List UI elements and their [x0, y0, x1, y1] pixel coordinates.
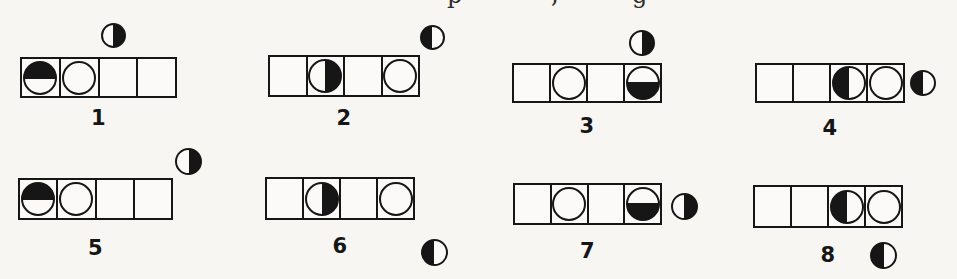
empty-cell — [588, 65, 625, 101]
half-left-marker-below-right-outside — [421, 239, 448, 266]
cell-with-half-bottom — [625, 65, 660, 101]
half-left-marker-below-cell-4 — [870, 242, 897, 269]
empty-cell — [514, 65, 551, 101]
cropped-letter-fragment: p — [447, 0, 462, 7]
empty-cell — [97, 180, 135, 218]
cell-with-half-left — [829, 187, 866, 226]
figure-4: 4 — [0, 0, 957, 279]
half-left-circle-icon — [830, 190, 864, 224]
half-left-circle-icon — [832, 66, 866, 100]
half-top-circle-icon — [23, 61, 57, 95]
cell-with-half-top — [20, 180, 58, 218]
half-top-circle-icon — [21, 182, 55, 216]
empty-cell — [794, 65, 831, 101]
circle-open-circle-icon — [379, 182, 413, 216]
cell-with-half-top — [22, 59, 61, 96]
half-left-marker-right-of-row — [910, 70, 936, 96]
cell-with-circle-open — [378, 179, 413, 218]
empty-cell — [267, 179, 304, 218]
figure-6: 6 — [0, 0, 957, 279]
cropped-letter-fragment: , — [551, 0, 559, 7]
cell-with-half-right — [304, 179, 341, 218]
cell-with-circle-open — [551, 65, 588, 101]
empty-cell — [270, 57, 308, 95]
cell-with-circle-open — [866, 187, 901, 226]
figure-3-row — [512, 63, 662, 103]
figure-2-label: 2 — [268, 106, 420, 130]
empty-cell — [135, 180, 171, 218]
cell-with-circle-open — [552, 185, 589, 223]
puzzle-figure-grid: p,g 1 2 3 4 5 6 7 8 — [0, 0, 957, 279]
half-right-circle-icon — [305, 182, 339, 216]
figure-7: 7 — [0, 0, 957, 279]
empty-cell — [792, 187, 829, 226]
half-right-marker-above-right-corner — [175, 148, 202, 175]
circle-open-circle-icon — [552, 187, 586, 221]
figure-5-row — [18, 178, 173, 220]
figure-1: 1 — [0, 0, 957, 279]
cropped-letter-fragment: g — [632, 0, 647, 7]
figure-7-row — [513, 183, 662, 225]
half-right-circle-icon — [308, 59, 342, 93]
figure-6-row — [265, 177, 415, 220]
circle-open-circle-icon — [383, 59, 417, 93]
empty-cell — [341, 179, 378, 218]
figure-4-label: 4 — [755, 116, 905, 140]
figure-8-row — [753, 185, 903, 228]
cell-with-circle-open — [868, 65, 903, 101]
figure-5-label: 5 — [18, 236, 173, 260]
figure-1-label: 1 — [20, 106, 177, 130]
cell-with-circle-open — [61, 59, 100, 96]
figure-8: 8 — [0, 0, 957, 279]
circle-open-circle-icon — [869, 66, 903, 100]
half-left-marker-above-right-outside — [420, 25, 445, 50]
cell-with-half-bottom — [625, 185, 660, 223]
cropped-caption-fragments: p,g — [0, 0, 957, 9]
figure-3-label: 3 — [512, 114, 662, 138]
cell-with-half-left — [831, 65, 868, 101]
figure-2-row — [268, 55, 420, 97]
empty-cell — [345, 57, 383, 95]
empty-cell — [755, 187, 792, 226]
empty-cell — [515, 185, 552, 223]
half-right-marker-above-cell-3 — [101, 23, 126, 48]
half-bottom-circle-icon — [626, 66, 660, 100]
figure-6-label: 6 — [265, 234, 415, 258]
figure-4-row — [755, 63, 905, 103]
empty-cell — [100, 59, 139, 96]
figure-3: 3 — [0, 0, 957, 279]
empty-cell — [757, 65, 794, 101]
figure-1-row — [20, 57, 177, 98]
circle-open-circle-icon — [867, 190, 901, 224]
circle-open-circle-icon — [62, 61, 96, 95]
half-right-marker-above-cell-4 — [629, 30, 655, 56]
circle-open-circle-icon — [552, 66, 586, 100]
cell-with-circle-open — [383, 57, 419, 95]
figure-5: 5 — [0, 0, 957, 279]
figure-8-label: 8 — [753, 243, 903, 267]
half-bottom-circle-icon — [626, 187, 660, 221]
circle-open-circle-icon — [59, 182, 93, 216]
cell-with-half-right — [308, 57, 346, 95]
half-right-marker-right-of-row — [671, 193, 698, 220]
empty-cell — [589, 185, 626, 223]
figure-2: 2 — [0, 0, 957, 279]
cell-with-circle-open — [58, 180, 96, 218]
empty-cell — [138, 59, 175, 96]
figure-7-label: 7 — [513, 239, 662, 263]
